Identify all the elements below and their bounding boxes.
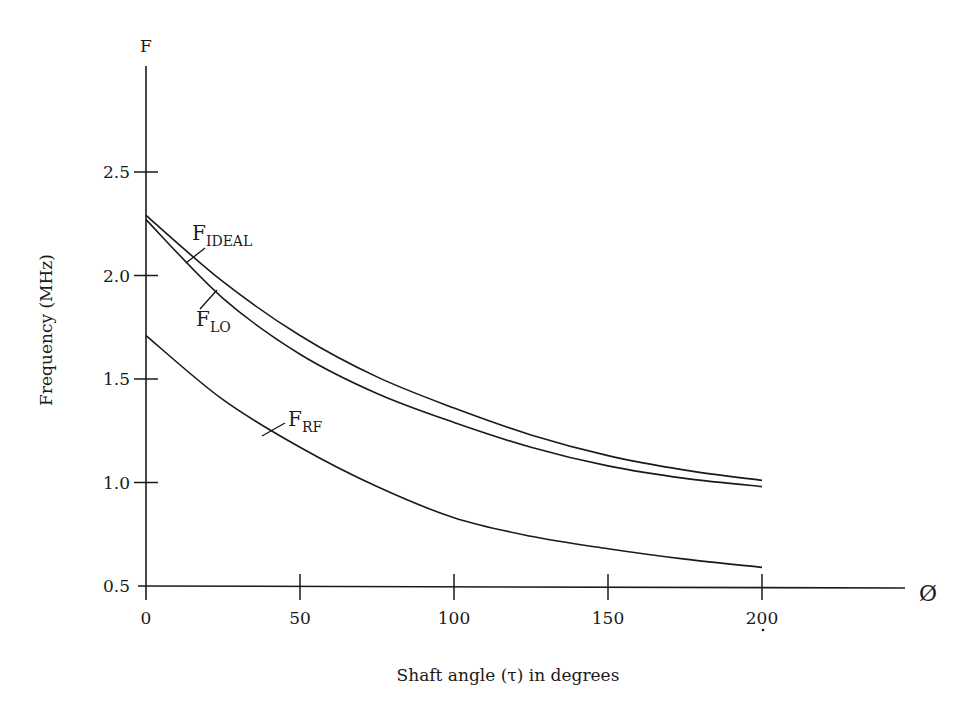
y-tick-label: 1.0 [103,473,130,493]
label-f-rf-leader [262,423,285,436]
x-axis-title: Shaft angle (τ) in degrees [397,665,620,685]
y-axis-symbol: F [140,36,152,56]
x-axis-symbol: Ø [919,581,937,606]
y-tick-label: 2.5 [103,162,130,182]
label-f-rf: FRF [288,407,322,435]
x-tick-label: 50 [289,608,311,628]
x-tick-label: 0 [141,608,152,628]
curve-f-rf [146,336,762,568]
label-f-lo: FLO [196,307,231,335]
curve-f-ideal [146,215,762,480]
frequency-vs-shaft-angle-chart: FØ0.51.01.52.02.5050100150200Shaft angle… [0,0,972,720]
x-tick-label: 150 [592,608,624,628]
y-tick-label: 0.5 [103,576,130,596]
axes [134,66,905,600]
y-tick-label: 1.5 [103,369,130,389]
stray-dot [762,629,765,632]
x-tick-label: 200 [746,608,778,628]
curves [146,215,762,567]
curve-f-lo [146,220,762,487]
y-tick-label: 2.0 [103,266,130,286]
label-f-ideal-leader [186,248,205,263]
x-tick-label: 100 [438,608,470,628]
label-f-ideal: FIDEAL [192,221,252,249]
x-axis-line [138,586,905,588]
y-axis-title: Frequency (MHz) [36,254,56,406]
